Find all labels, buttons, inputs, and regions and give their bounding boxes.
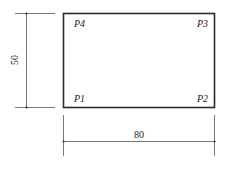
point-label-p1: P1 [73,93,85,104]
height-dimension-label: 50 [9,55,20,65]
rectangle-outline [64,14,215,108]
tick-mark-top [25,12,27,14]
point-label-p2: P2 [196,93,208,104]
width-dimension-label: 80 [134,129,144,140]
vertical-dimension [15,12,55,108]
point-label-p3: P3 [196,18,208,29]
tick-mark-left [62,140,64,142]
tick-mark-bottom [25,106,27,108]
point-label-p4: P4 [73,18,85,29]
dimension-diagram: P4 P3 P1 P2 80 50 [0,0,227,173]
tick-mark-right [213,140,215,142]
